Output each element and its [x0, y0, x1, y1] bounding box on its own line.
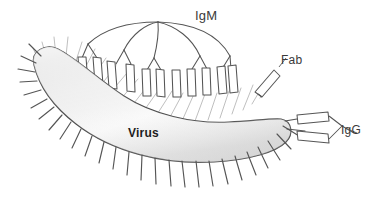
antibody-virus-diagram: IgM Fab IgG Virus	[0, 0, 377, 210]
label-igm: IgM	[195, 9, 217, 22]
virus-body	[33, 47, 290, 162]
igm-fab-arm	[156, 69, 165, 97]
igg-fab-arm	[297, 112, 329, 124]
fab-fragment	[255, 70, 280, 97]
igm-fab-arm	[142, 69, 151, 96]
igm-fab-arm	[228, 65, 238, 93]
label-virus: Virus	[128, 127, 159, 139]
diagram-canvas	[0, 0, 377, 210]
igm-fab-arm	[172, 70, 181, 97]
igm-fab-arm	[217, 66, 227, 94]
label-igg: IgG	[341, 124, 361, 136]
igm-arcs	[88, 22, 230, 58]
igm-fab-arm	[187, 69, 196, 96]
label-fab: Fab	[281, 54, 302, 66]
igg-fab-arm	[297, 131, 329, 143]
igm-fab-arm	[202, 68, 211, 95]
igm-fab-arm	[126, 64, 135, 92]
